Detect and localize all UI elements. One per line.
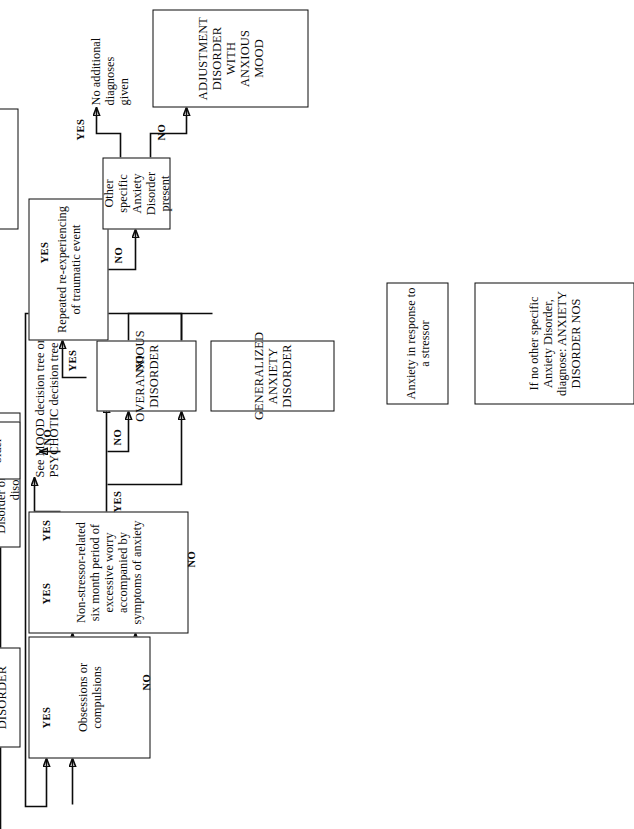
edge-label-stressor-yes: YES — [66, 349, 77, 371]
edge-label-other-no: NO — [155, 123, 166, 140]
node-other-specific-anxiety-disorder-label: Other specific Anxiety Disorder present — [101, 161, 171, 225]
edge-label-repeated-yes: YES — [38, 241, 49, 263]
node-other-specific-anxiety-disorder[interactable]: Other specific Anxiety Disorder present — [102, 157, 170, 229]
node-generalized-anxiety-disorder-label: GENERALIZED ANXIETY DISORDER — [251, 331, 293, 419]
node-anxiety-disorder-nos[interactable]: If no other specific Anxiety Disorder, d… — [474, 282, 634, 404]
node-adjustment-disorder-label: ADJUSTMENT DISORDER WITH ANXIOUS MOOD — [195, 13, 265, 103]
edge-label-age-yes: YES — [111, 490, 122, 512]
node-anxiety-in-response-to-stressor[interactable]: Anxiety in response to a stressor — [386, 282, 448, 404]
node-age-18-or-older[interactable]: Age 18 or older — [0, 421, 20, 479]
edge-label-stressor-no: NO — [133, 354, 144, 371]
node-six-month-worry-label: Non-stressor-related six month period of… — [73, 515, 143, 629]
node-obsessions[interactable]: Obsessions or compulsions — [28, 636, 150, 758]
node-no-additional-diagnoses: No additional diagnoses given — [74, 19, 130, 105]
node-adjustment-disorder[interactable]: ADJUSTMENT DISORDER WITH ANXIOUS MOOD — [152, 9, 308, 107]
edge-label-obsessions-no: NO — [140, 673, 151, 690]
node-anxiety-in-response-to-stressor-label: Anxiety in response to a stressor — [403, 286, 431, 400]
edge-label-ocd-yes: YES — [40, 706, 51, 728]
node-anxiety-disorder-nos-label: If no other specific Anxiety Disorder, d… — [526, 286, 582, 400]
edge-label-occurs-no: NO — [41, 428, 52, 445]
edge-label-six-month-yes: YES — [40, 582, 51, 604]
node-no-additional-diagnoses-label: No additional diagnoses given — [88, 37, 130, 105]
node-overanxious-disorder[interactable]: OVERANXIOUS DISORDER — [96, 340, 196, 411]
edge-label-repeated-no: NO — [112, 246, 123, 263]
node-generalized-anxiety-disorder[interactable]: GENERALIZED ANXIETY DISORDER — [210, 340, 334, 411]
node-see-other-trees-label: See MOOD decision tree or PSYCHOTIC deci… — [32, 339, 60, 477]
node-repeated-reexperiencing[interactable]: Repeated re-experiencing of traumatic ev… — [28, 198, 108, 340]
node-ptsd[interactable]: POST-TRAUMATIC STRESS DISORDER — [0, 108, 18, 229]
node-ocd[interactable]: OBSESSIVE COMPULSIVE DISORDER — [0, 647, 20, 747]
node-obsessions-label: Obsessions or compulsions — [75, 640, 103, 754]
edge-label-six-month-no: NO — [185, 550, 196, 567]
node-age-18-or-older-label: Age 18 or older — [0, 425, 3, 475]
node-overanxious-disorder-label: OVERANXIOUS DISORDER — [132, 330, 160, 422]
edge-label-other-yes: YES — [74, 118, 85, 140]
node-ocd-label: OBSESSIVE COMPULSIVE DISORDER — [0, 656, 8, 737]
node-repeated-reexperiencing-label: Repeated re-experiencing of traumatic ev… — [54, 206, 82, 333]
edge-label-age-no: NO — [111, 428, 122, 445]
edge-label-occurs-yes: YES — [40, 519, 51, 541]
node-six-month-worry[interactable]: Non-stressor-related six month period of… — [28, 511, 188, 633]
